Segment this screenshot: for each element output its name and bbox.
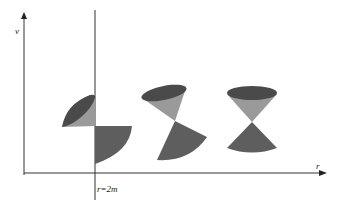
v-axis-arrow-icon	[21, 12, 27, 19]
r-axis-arrow-icon	[319, 170, 327, 176]
r-axis-label: r	[316, 161, 320, 171]
v-axis-label: v	[15, 26, 19, 36]
light-cone-diagram: v r r=2m	[0, 0, 342, 211]
horizon-label: r=2m	[97, 184, 118, 194]
r-axis	[24, 170, 327, 176]
light-cone-horizon	[62, 95, 132, 164]
light-cone-upright	[227, 86, 277, 153]
light-cone-intermediate	[140, 81, 207, 160]
v-axis	[21, 12, 27, 175]
